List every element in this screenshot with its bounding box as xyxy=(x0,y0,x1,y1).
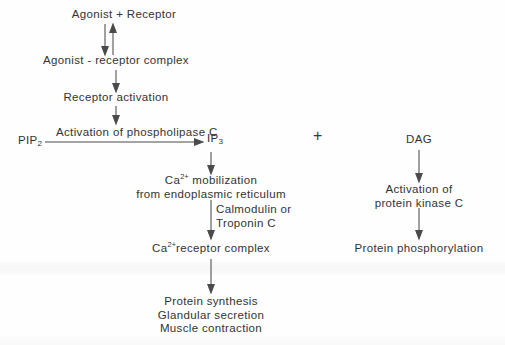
ca-superscript: 2+ xyxy=(180,172,189,181)
node-plus-operator: + xyxy=(313,128,322,144)
arrow-ca-mobilization-to-ca-receptor-complex xyxy=(208,200,214,239)
calmodulin-line2: Troponin C xyxy=(216,217,292,231)
node-dag: DAG xyxy=(406,133,432,147)
node-ca-mobilization-line1: Ca2+ mobilization xyxy=(136,174,286,188)
edge-label-phospholipase-c: Activation of phospholipase C xyxy=(56,126,218,140)
arrow-ca-receptor-complex-to-outcomes xyxy=(208,259,214,293)
node-agonist-receptor-complex: Agonist - receptor complex xyxy=(43,54,189,68)
node-ip3-subscript: 3 xyxy=(219,137,223,146)
arrow-agonist-to-complex xyxy=(102,24,108,55)
arrow-dag-to-pkc xyxy=(416,150,422,182)
node-ca-mobilization-line2: from endoplasmic reticulum xyxy=(136,188,286,202)
node-protein-phosphorylation: Protein phosphorylation xyxy=(355,242,484,256)
scan-artifact-band-upper xyxy=(0,262,505,275)
outcome-protein-synthesis: Protein synthesis xyxy=(158,295,264,309)
arrow-complex-to-receptor-activation xyxy=(113,70,119,92)
ca-mobilization-text: mobilization xyxy=(189,174,257,186)
pkc-line2: protein kinase C xyxy=(375,197,464,211)
calmodulin-line1: Calmodulin or xyxy=(216,203,292,217)
ca-receptor-text: receptor complex xyxy=(176,242,270,254)
ca-receptor-symbol: Ca xyxy=(152,242,167,254)
outcome-muscle-contraction: Muscle contraction xyxy=(158,322,264,336)
scan-artifact-band-lower xyxy=(0,336,505,345)
arrow-complex-to-agonist xyxy=(110,24,116,55)
node-pip2-label: PIP xyxy=(18,134,38,146)
node-agonist-plus-receptor: Agonist + Receptor xyxy=(72,8,176,22)
outcome-glandular-secretion: Glandular secretion xyxy=(158,309,264,323)
node-pip2-subscript: 2 xyxy=(38,139,42,148)
arrow-pkc-to-protein-phosphorylation xyxy=(416,208,422,239)
node-receptor-activation: Receptor activation xyxy=(63,91,168,105)
arrow-receptor-activation-to-plc xyxy=(113,106,119,124)
node-ca-mobilization: Ca2+ mobilization from endoplasmic retic… xyxy=(136,174,286,201)
arrow-pip2-to-ip3 xyxy=(45,139,203,145)
node-cellular-outcomes: Protein synthesis Glandular secretion Mu… xyxy=(158,295,264,336)
node-activation-protein-kinase-c: Activation of protein kinase C xyxy=(375,183,464,210)
arrow-ip3-to-ca-mobilization xyxy=(208,152,214,174)
ca-receptor-superscript: 2+ xyxy=(168,240,177,249)
node-pip2: PIP2 xyxy=(18,134,42,148)
ca-symbol: Ca xyxy=(165,174,180,186)
edge-label-calmodulin-troponin: Calmodulin or Troponin C xyxy=(216,203,292,230)
pkc-line1: Activation of xyxy=(375,183,464,197)
node-ca-receptor-complex: Ca2+receptor complex xyxy=(152,242,270,256)
connector-layer xyxy=(0,0,505,345)
diagram-canvas: Agonist + Receptor Agonist - receptor co… xyxy=(0,0,505,345)
